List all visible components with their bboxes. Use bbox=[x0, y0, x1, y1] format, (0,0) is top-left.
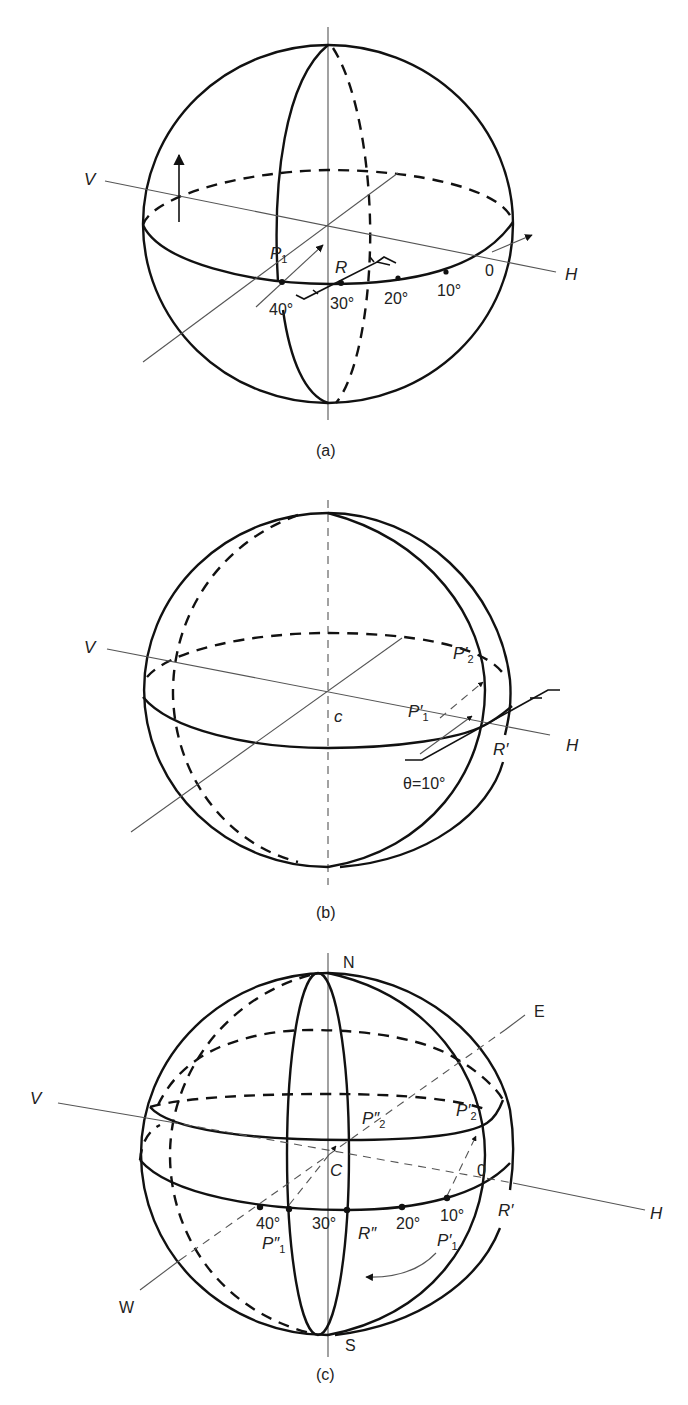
meridian-back bbox=[333, 48, 370, 403]
scale-40: 40° bbox=[269, 301, 293, 318]
label-north: N bbox=[343, 954, 355, 971]
p2-dashed-arrow bbox=[440, 682, 483, 718]
panel-b: V H c P′1 P′2 R′ θ=10° (b) bbox=[84, 500, 579, 921]
label-zero: 0 bbox=[485, 262, 494, 279]
equator-front bbox=[140, 1160, 510, 1210]
label-p1-double-prime: P″1 bbox=[262, 1234, 285, 1255]
scale-20: 20° bbox=[396, 1215, 420, 1232]
label-p2-prime: P′2 bbox=[453, 644, 474, 665]
point-10 bbox=[443, 269, 448, 274]
label-south: S bbox=[345, 1337, 356, 1354]
p1d-to-p2d-arrow bbox=[447, 1136, 476, 1196]
label-r-double-prime: R″ bbox=[358, 1224, 377, 1243]
sphere-outline-left bbox=[144, 513, 328, 867]
w-e-line-inner bbox=[180, 1030, 505, 1260]
diagonal-axis bbox=[131, 638, 402, 832]
label-p2-double-prime: P″2 bbox=[362, 1109, 385, 1130]
scale-30: 30° bbox=[330, 295, 354, 312]
w-line-outer bbox=[140, 1260, 180, 1290]
diagonal-axis bbox=[143, 173, 398, 362]
rotation-arrow-icon bbox=[366, 1253, 436, 1277]
label-v: V bbox=[30, 1089, 43, 1108]
upper-circle-front bbox=[150, 1100, 503, 1140]
point-20 bbox=[395, 275, 400, 280]
label-p1-prime: P′1 bbox=[408, 702, 429, 723]
label-v: V bbox=[84, 170, 97, 189]
equator-back bbox=[147, 633, 502, 677]
caption-a: (a) bbox=[316, 442, 336, 459]
label-h: H bbox=[566, 736, 579, 755]
scale-10: 10° bbox=[437, 282, 461, 299]
v-h-line bbox=[105, 181, 556, 272]
label-theta: θ=10° bbox=[403, 775, 445, 792]
sphere-outline-right-lower bbox=[335, 1228, 500, 1335]
label-p2-prime: P′2 bbox=[456, 1101, 477, 1122]
sphere-rotation-figure: V H P1 R 0 40° 30° 20° 10° (a) bbox=[0, 0, 688, 1405]
rotated-meridian-front bbox=[328, 513, 485, 867]
label-p1-prime: P′1 bbox=[437, 1231, 458, 1252]
point-r bbox=[338, 280, 344, 286]
scale-10: 10° bbox=[440, 1207, 464, 1224]
meridian-front-lower bbox=[283, 310, 328, 403]
label-h: H bbox=[650, 1204, 663, 1223]
label-east: E bbox=[534, 1003, 545, 1020]
p1-direction-arrow bbox=[256, 245, 323, 307]
meridian-ellipse bbox=[287, 973, 349, 1335]
label-west: W bbox=[119, 1299, 135, 1316]
point-40 bbox=[279, 279, 285, 285]
point-20 bbox=[399, 1204, 405, 1210]
sphere-outline-left bbox=[141, 973, 328, 1335]
label-r-prime: R′ bbox=[493, 740, 509, 759]
label-p1: P1 bbox=[270, 244, 287, 265]
label-center: C bbox=[330, 1161, 343, 1180]
label-zero: 0 bbox=[477, 1162, 486, 1179]
caption-c: (c) bbox=[316, 1366, 335, 1383]
panel-a: V H P1 R 0 40° 30° 20° 10° (a) bbox=[84, 27, 578, 459]
label-center: c bbox=[334, 707, 343, 726]
e-line-outer bbox=[505, 1015, 525, 1030]
scale-30: 30° bbox=[312, 1215, 336, 1232]
upper-circle-back bbox=[150, 1094, 488, 1110]
meridian-front-upper bbox=[277, 45, 328, 282]
panel-c: V H N S E W C P″2 P′2 0 40° 30° 20° 10° … bbox=[30, 953, 663, 1383]
point-40 bbox=[257, 1204, 263, 1210]
label-h: H bbox=[565, 265, 578, 284]
rotated-great-circle-back bbox=[170, 975, 310, 1333]
label-v: V bbox=[84, 638, 97, 657]
scale-40: 40° bbox=[256, 1215, 280, 1232]
point-10 bbox=[444, 1195, 450, 1201]
scale-20: 20° bbox=[384, 290, 408, 307]
point-p1dd bbox=[286, 1206, 292, 1212]
label-r-prime: R′ bbox=[498, 1201, 514, 1220]
h-line-outer bbox=[513, 1183, 645, 1210]
caption-b: (b) bbox=[316, 904, 336, 921]
label-r: R bbox=[335, 258, 347, 277]
point-rdd bbox=[344, 1207, 350, 1213]
